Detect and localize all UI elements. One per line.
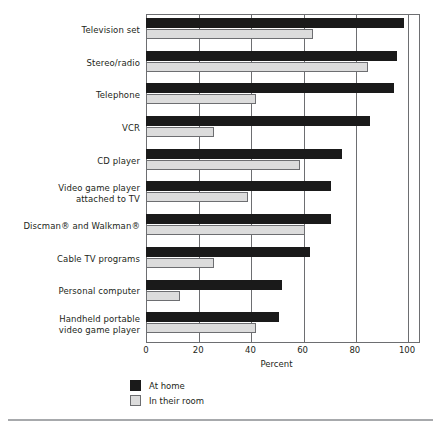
bar-in-their-room xyxy=(146,323,256,333)
bar-at-home xyxy=(146,18,404,28)
category-label: VCR xyxy=(0,123,140,134)
category-label-line: video game player xyxy=(0,325,140,336)
category-label: Stereo/radio xyxy=(0,58,140,69)
bar-at-home xyxy=(146,116,370,126)
legend-item-in-their-room: In their room xyxy=(130,393,204,408)
bar-at-home xyxy=(146,214,331,224)
x-tick-label-40: 40 xyxy=(245,345,256,356)
category-label: Discman® and Walkman® xyxy=(0,221,140,232)
bar-in-their-room xyxy=(146,29,313,39)
category-label: Cable TV programs xyxy=(0,254,140,265)
category-label-line: VCR xyxy=(0,123,140,134)
category-axis-labels: Television setStereo/radioTelephoneVCRCD… xyxy=(0,15,140,342)
x-axis-title: Percent xyxy=(146,359,407,369)
x-tick-label-0: 0 xyxy=(143,345,148,356)
bar-in-their-room xyxy=(146,94,256,104)
category-label: Personal computer xyxy=(0,286,140,297)
chart-figure: Television setStereo/radioTelephoneVCRCD… xyxy=(0,0,441,430)
bar-at-home xyxy=(146,83,394,93)
bar-at-home xyxy=(146,51,397,61)
category-label: Handheld portablevideo game player xyxy=(0,314,140,336)
bar-at-home xyxy=(146,181,331,191)
bar-at-home xyxy=(146,280,282,290)
bar-group xyxy=(146,211,419,244)
bar-group xyxy=(146,48,419,81)
x-tick-label-100: 100 xyxy=(399,345,415,356)
category-label: Television set xyxy=(0,25,140,36)
category-label-line: Handheld portable xyxy=(0,314,140,325)
bar-group xyxy=(146,80,419,113)
bar-group xyxy=(146,309,419,342)
bars-container xyxy=(146,15,419,342)
bar-in-their-room xyxy=(146,127,214,137)
bar-at-home xyxy=(146,247,310,257)
legend-label-at-home: At home xyxy=(149,381,185,391)
category-label: Telephone xyxy=(0,90,140,101)
bar-at-home xyxy=(146,312,279,322)
bar-group xyxy=(146,178,419,211)
legend-swatch-in-their-room xyxy=(130,395,141,406)
bar-in-their-room xyxy=(146,258,214,268)
bar-at-home xyxy=(146,149,342,159)
x-tick-label-60: 60 xyxy=(297,345,308,356)
category-label: CD player xyxy=(0,156,140,167)
legend-label-in-their-room: In their room xyxy=(149,396,204,406)
category-label-line: Stereo/radio xyxy=(0,58,140,69)
bar-group xyxy=(146,146,419,179)
bar-group xyxy=(146,277,419,310)
chart-legend: At home In their room xyxy=(130,378,204,408)
category-label-line: Video game player xyxy=(0,183,140,194)
bar-in-their-room xyxy=(146,291,180,301)
bar-group xyxy=(146,15,419,48)
category-label-line: CD player xyxy=(0,156,140,167)
category-label-line: Cable TV programs xyxy=(0,254,140,265)
x-tick-label-20: 20 xyxy=(193,345,204,356)
category-label-line: Personal computer xyxy=(0,286,140,297)
x-axis-ticks: 020406080100 xyxy=(146,345,420,359)
bar-group xyxy=(146,113,419,146)
category-label-line: Television set xyxy=(0,25,140,36)
footer-divider xyxy=(8,419,433,421)
bar-in-their-room xyxy=(146,62,368,72)
category-label-line: Discman® and Walkman® xyxy=(0,221,140,232)
legend-item-at-home: At home xyxy=(130,378,204,393)
bar-in-their-room xyxy=(146,160,300,170)
bar-in-their-room xyxy=(146,192,248,202)
category-label: Video game playerattached to TV xyxy=(0,183,140,205)
x-tick-label-80: 80 xyxy=(349,345,360,356)
bar-in-their-room xyxy=(146,225,305,235)
legend-swatch-at-home xyxy=(130,380,141,391)
category-label-line: Telephone xyxy=(0,90,140,101)
category-label-line: attached to TV xyxy=(0,194,140,205)
bar-group xyxy=(146,244,419,277)
